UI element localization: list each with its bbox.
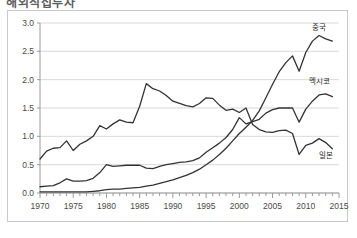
series-line-china (40, 35, 332, 191)
x-axis: 1970197519801985199019952000200520102015 (31, 193, 349, 211)
series-label-japan: 일본 (319, 151, 333, 160)
page-title-strip: 해외직접투자 (0, 0, 357, 9)
x-axis-tick-label: 1985 (130, 201, 149, 211)
line-chart-svg: 0.00.51.01.52.02.53.0 197019751980198519… (8, 11, 349, 223)
y-axis-tick-label: 2.0 (22, 75, 34, 85)
series-label-china: 중국 (312, 23, 326, 32)
y-axis-tick-label: 0.5 (22, 160, 34, 170)
chart-page: 해외직접투자 0.00.51.01.52.02.53.0 19701975198… (0, 0, 357, 238)
y-axis-tick-label: 2.5 (22, 46, 34, 56)
x-axis-tick-label: 1990 (163, 201, 182, 211)
plot-area: 0.00.51.01.52.02.53.0 197019751980198519… (8, 11, 349, 223)
page-title: 해외직접투자 (6, 0, 75, 9)
x-axis-tick-label: 1970 (31, 201, 50, 211)
y-axis-tick-label: 0.0 (22, 188, 34, 198)
y-axis-tick-label: 1.0 (22, 131, 34, 141)
series-lines-group (40, 35, 332, 191)
x-axis-tick-label: 2010 (296, 201, 315, 211)
y-axis-tick-label: 3.0 (22, 18, 34, 28)
x-axis-tick-label: 2015 (330, 201, 349, 211)
series-line-japan (40, 84, 332, 159)
x-axis-tick-label: 2005 (263, 201, 282, 211)
y-axis: 0.00.51.01.52.02.53.0 (22, 18, 40, 198)
x-axis-tick-label: 1975 (64, 201, 83, 211)
x-axis-tick-label: 2000 (230, 201, 249, 211)
chart-frame: 0.00.51.01.52.02.53.0 197019751980198519… (7, 10, 348, 222)
x-axis-tick-label: 1980 (97, 201, 116, 211)
gridlines-group (40, 23, 339, 193)
y-axis-tick-label: 1.5 (22, 103, 34, 113)
x-axis-tick-label: 1995 (197, 201, 216, 211)
series-label-mexico: 멕시코 (309, 76, 330, 86)
